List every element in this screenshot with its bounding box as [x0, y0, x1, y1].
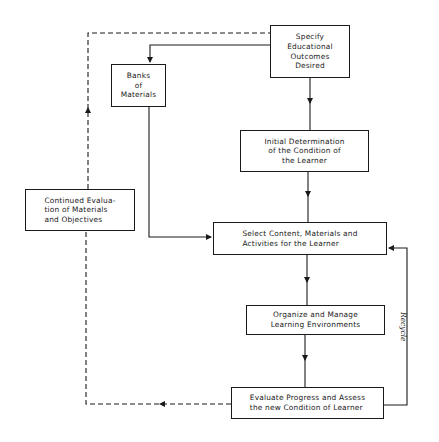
node-label: Organize and Manage Learning Environment…: [271, 310, 361, 329]
node-label: Initial Determination of the Condition o…: [264, 137, 344, 166]
node-initial-determination: Initial Determination of the Condition o…: [240, 130, 369, 172]
arrowhead-continued-specify: [85, 107, 91, 113]
node-label: Continued Evalua- tion of Materials and …: [44, 196, 115, 225]
node-banks-of-materials: Banks of Materials: [111, 64, 166, 107]
node-label: Evaluate Progress and Assess the new Con…: [250, 393, 365, 412]
node-evaluate-progress: Evaluate Progress and Assess the new Con…: [231, 387, 384, 419]
node-label: Select Content, Materials and Activities…: [242, 229, 357, 248]
node-select-content: Select Content, Materials and Activities…: [213, 222, 387, 255]
recycle-label: Recycle: [399, 312, 408, 342]
edge-specify-banks: [150, 45, 270, 62]
edge-evaluate-continued: [86, 231, 231, 404]
node-continued-evaluation: Continued Evalua- tion of Materials and …: [25, 189, 135, 231]
edge-banks-select: [149, 107, 211, 237]
arrowhead-evaluate-continued: [159, 401, 165, 407]
node-label: Banks of Materials: [121, 71, 157, 100]
node-organize-manage: Organize and Manage Learning Environment…: [246, 305, 385, 335]
node-specify-outcomes: Specify Educational Outcomes Desired: [270, 25, 350, 78]
node-label: Specify Educational Outcomes Desired: [287, 32, 333, 70]
